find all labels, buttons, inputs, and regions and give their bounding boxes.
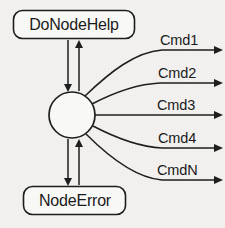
command-label-cmd1: Cmd1 [160,32,198,48]
vertical-connectors-top [64,40,83,92]
diagram-canvas: DoNodeHelp NodeError Cmd1 Cmd2 Cmd3 Cmd4… [0,0,225,228]
node-nodeerror[interactable]: NodeError [24,187,126,215]
edge-state-to-nodeerror[interactable] [64,139,72,186]
node-dononodehelp[interactable]: DoNodeHelp [14,11,135,39]
command-edge-cmdn[interactable] [86,134,223,184]
edge-nodeerror-to-state[interactable] [75,139,83,185]
dononodehelp-label: DoNodeHelp [29,16,119,33]
nodeerror-label: NodeError [39,192,112,209]
command-edges-group [85,46,223,184]
diagram-svg: DoNodeHelp NodeError Cmd1 Cmd2 Cmd3 Cmd4… [0,0,225,228]
command-label-cmd2: Cmd2 [158,65,196,81]
command-label-cmd4: Cmd4 [158,130,196,146]
command-label-cmdn: CmdN [157,162,198,178]
edge-dononodehelp-to-state[interactable] [64,40,72,92]
center-state-circle[interactable] [49,92,95,138]
edge-state-to-dononodehelp[interactable] [75,40,83,91]
vertical-connectors-bottom [64,139,83,186]
command-edge-cmd1[interactable] [85,46,223,96]
command-labels-group: Cmd1 Cmd2 Cmd3 Cmd4 CmdN [157,32,198,178]
command-label-cmd3: Cmd3 [157,97,195,113]
